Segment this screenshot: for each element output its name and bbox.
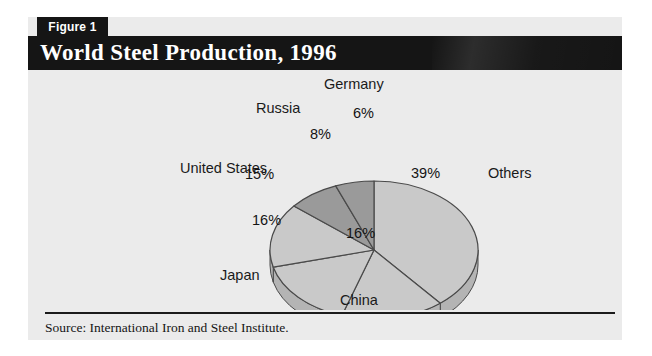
page-title: World Steel Production, 1996 — [40, 40, 337, 66]
title-bar-sheen — [432, 36, 622, 70]
pie-value-china: 16% — [346, 225, 375, 241]
figure-page: Figure 1 World Steel Production, 1996 Ge… — [0, 0, 652, 356]
source-divider — [45, 312, 615, 314]
pie-chart: Germany Russia United States Japan China… — [28, 70, 622, 310]
pie-value-others: 39% — [411, 165, 440, 181]
pie-label-china: China — [340, 292, 378, 308]
figure-title-bar: World Steel Production, 1996 — [28, 36, 622, 70]
pie-value-germany: 6% — [353, 105, 374, 121]
pie-chart-svg — [28, 70, 622, 310]
figure-number-tab: Figure 1 — [37, 17, 108, 36]
pie-label-russia: Russia — [256, 100, 300, 116]
pie-top-faces — [270, 181, 478, 310]
pie-label-germany: Germany — [324, 76, 384, 92]
pie-value-united-states: 15% — [245, 166, 274, 182]
pie-label-others: Others — [488, 165, 532, 181]
pie-value-japan: 16% — [252, 212, 281, 228]
figure-number-label: Figure 1 — [48, 20, 96, 34]
source-note: Source: International Iron and Steel Ins… — [45, 320, 289, 336]
pie-value-russia: 8% — [310, 126, 331, 142]
pie-label-japan: Japan — [220, 267, 260, 283]
